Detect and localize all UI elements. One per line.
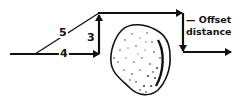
offset-diagram: 5 4 3 — Offset distance — [0, 0, 242, 111]
hypotenuse-label: 5 — [58, 27, 68, 38]
base-label: 4 — [59, 48, 69, 59]
offset-distance-label: — Offset distance — [186, 14, 232, 38]
offset-label-line1: — Offset — [186, 14, 232, 26]
offset-label-line2: distance — [186, 26, 232, 38]
height-label: 3 — [86, 32, 96, 43]
rock-obstacle — [111, 25, 170, 95]
